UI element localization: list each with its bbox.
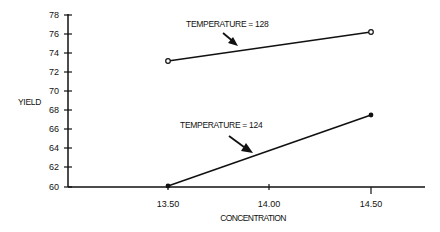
series-temperature-128 bbox=[166, 30, 374, 64]
data-point-open bbox=[369, 30, 374, 35]
x-axis-label: CONCENTRATION bbox=[220, 213, 286, 223]
y-tick-label: 74 bbox=[49, 48, 59, 58]
x-tick-label: 14.50 bbox=[360, 199, 383, 209]
y-axis-label: YIELD bbox=[18, 97, 41, 107]
data-point-open bbox=[166, 59, 171, 64]
x-ticks bbox=[168, 184, 371, 194]
y-tick-label: 78 bbox=[49, 10, 59, 20]
y-tick-label: 70 bbox=[49, 86, 59, 96]
line-chart: 78 76 74 72 70 68 66 64 62 60 YIELD 13.5… bbox=[0, 0, 440, 232]
y-tick-label: 62 bbox=[49, 162, 59, 172]
x-tick-label: 14.00 bbox=[258, 199, 281, 209]
arrow-icon bbox=[223, 33, 238, 46]
y-tick-label: 76 bbox=[49, 29, 59, 39]
y-tick-label: 64 bbox=[49, 143, 59, 153]
y-tick-label: 68 bbox=[49, 105, 59, 115]
annotation-temperature-124: TEMPERATURE = 124 bbox=[180, 120, 263, 130]
x-tick-label: 13.50 bbox=[157, 199, 180, 209]
data-point-filled bbox=[369, 113, 374, 118]
y-tick-label: 66 bbox=[49, 124, 59, 134]
y-tick-labels: 78 76 74 72 70 68 66 64 62 60 bbox=[49, 10, 59, 192]
annotation-temperature-128: TEMPERATURE = 128 bbox=[186, 19, 269, 29]
data-point-filled bbox=[166, 184, 171, 189]
y-tick-label: 72 bbox=[49, 67, 59, 77]
y-tick-label: 60 bbox=[49, 182, 59, 192]
arrow-icon bbox=[229, 136, 253, 153]
x-tick-labels: 13.50 14.00 14.50 bbox=[157, 199, 383, 209]
